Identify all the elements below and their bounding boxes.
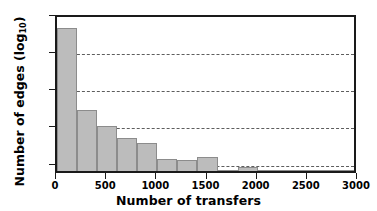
- y-axis-label-text: Number of edges (log: [12, 33, 27, 186]
- bar: [97, 126, 117, 171]
- bar: [117, 138, 137, 171]
- bar: [258, 170, 278, 171]
- x-tick-mark: [256, 173, 257, 179]
- y-tick-mark: [49, 126, 55, 127]
- bar: [238, 167, 258, 171]
- x-tick-mark: [155, 173, 156, 179]
- y-tick-mark: [49, 15, 55, 16]
- bar: [298, 170, 318, 171]
- bar: [137, 143, 157, 171]
- bar: [77, 110, 97, 171]
- y-axis-label-close: ): [12, 17, 27, 23]
- bar: [278, 170, 298, 171]
- x-tick-label: 1000: [141, 180, 169, 191]
- bar: [218, 170, 238, 171]
- y-tick-mark: [49, 89, 55, 90]
- bar: [318, 170, 338, 171]
- bar: [57, 28, 77, 171]
- bar: [177, 160, 197, 171]
- x-tick-label: 3000: [342, 180, 370, 191]
- y-tick-mark: [49, 164, 55, 165]
- y-axis-label-subscript: 10: [19, 22, 28, 33]
- bar: [338, 170, 356, 171]
- bar: [157, 159, 177, 171]
- x-tick-label: 2500: [292, 180, 320, 191]
- x-tick-mark: [206, 173, 207, 179]
- bar: [197, 157, 217, 171]
- y-tick-mark: [49, 52, 55, 53]
- x-axis-label: Number of transfers: [0, 193, 377, 208]
- x-tick-label: 0: [52, 180, 59, 191]
- gridline: [57, 54, 354, 55]
- x-tick-label: 1500: [192, 180, 220, 191]
- x-tick-mark: [306, 173, 307, 179]
- x-tick-label: 500: [95, 180, 116, 191]
- x-tick-mark: [105, 173, 106, 179]
- x-tick-mark: [55, 173, 56, 179]
- histogram-figure: 101102103104105 050010001500200025003000…: [0, 0, 377, 211]
- plot-area: [55, 15, 356, 173]
- x-tick-label: 2000: [242, 180, 270, 191]
- y-axis-label: Number of edges (log10): [12, 17, 27, 187]
- gridline: [57, 91, 354, 92]
- x-tick-mark: [356, 173, 357, 179]
